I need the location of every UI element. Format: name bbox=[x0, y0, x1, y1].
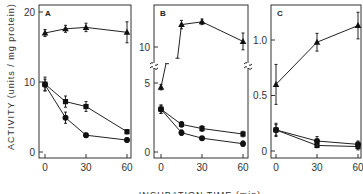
data-point-triangle bbox=[158, 84, 165, 90]
data-point-circle bbox=[273, 127, 279, 133]
data-point-triangle bbox=[83, 24, 90, 30]
data-point-triangle bbox=[240, 38, 247, 44]
y-tick-label: 20 bbox=[24, 7, 36, 18]
y-tick-label: 0 bbox=[261, 146, 267, 157]
data-point-circle bbox=[355, 141, 361, 147]
x-tick-label: 0 bbox=[273, 162, 279, 173]
data-point-circle bbox=[158, 106, 164, 112]
panel-b: B051003060 bbox=[139, 5, 252, 173]
data-point-square bbox=[124, 129, 129, 134]
series-triangles bbox=[158, 18, 247, 90]
x-tick-label: 30 bbox=[80, 162, 92, 173]
data-point-circle bbox=[179, 130, 185, 136]
data-point-circle bbox=[314, 138, 320, 144]
x-tick-label: 0 bbox=[158, 162, 164, 173]
y-tick-label: 10 bbox=[24, 77, 36, 88]
axis-break-gap bbox=[247, 63, 249, 68]
series-line bbox=[161, 64, 166, 87]
data-point-square bbox=[199, 126, 204, 131]
x-tick-label: 60 bbox=[352, 162, 363, 173]
series-squares bbox=[42, 77, 129, 134]
x-axis-label: INCUBATION TIME (min) bbox=[139, 190, 262, 194]
panel-c: C00.51.003060 bbox=[253, 5, 363, 173]
data-point-square bbox=[83, 104, 88, 109]
data-point-circle bbox=[240, 141, 246, 147]
series-triangles bbox=[273, 12, 362, 104]
x-tick-label: 60 bbox=[121, 162, 133, 173]
x-tick-label: 30 bbox=[311, 162, 323, 173]
data-point-circle bbox=[124, 137, 130, 143]
y-axis-label: ACTIVITY (units / mg protein) bbox=[6, 3, 16, 150]
data-point-square bbox=[63, 99, 68, 104]
axis-break-gap bbox=[153, 63, 155, 68]
y-tick-label: 0 bbox=[144, 147, 150, 158]
y-tick-label: 5 bbox=[144, 78, 150, 89]
series-line bbox=[202, 22, 243, 42]
data-point-square bbox=[240, 131, 245, 136]
series-circles bbox=[273, 123, 361, 147]
x-tick-label: 0 bbox=[42, 162, 48, 173]
series-line bbox=[178, 25, 182, 59]
data-point-triangle bbox=[355, 22, 362, 28]
y-tick-label: 10 bbox=[139, 42, 151, 53]
series-line bbox=[45, 85, 127, 140]
panel-label: A bbox=[45, 9, 51, 18]
data-point-circle bbox=[63, 115, 69, 121]
x-tick-label: 30 bbox=[196, 162, 208, 173]
axes-frame bbox=[154, 5, 248, 158]
data-point-circle bbox=[199, 135, 205, 141]
data-point-circle bbox=[42, 82, 48, 88]
panel-a: A0102003060 bbox=[24, 5, 133, 173]
y-tick-label: 0 bbox=[29, 147, 35, 158]
data-point-triangle bbox=[199, 18, 206, 24]
axes-frame bbox=[271, 5, 361, 158]
chart-figure: A0102003060B051003060C00.51.003060ACTIVI… bbox=[0, 0, 363, 194]
panel-label: C bbox=[277, 9, 283, 18]
data-point-circle bbox=[83, 132, 89, 138]
data-point-square bbox=[179, 122, 184, 127]
y-tick-label: 0.5 bbox=[253, 90, 267, 101]
panel-label: B bbox=[160, 9, 166, 18]
x-tick-label: 60 bbox=[237, 162, 249, 173]
series-triangles bbox=[42, 22, 131, 43]
y-tick-label: 1.0 bbox=[253, 35, 267, 46]
